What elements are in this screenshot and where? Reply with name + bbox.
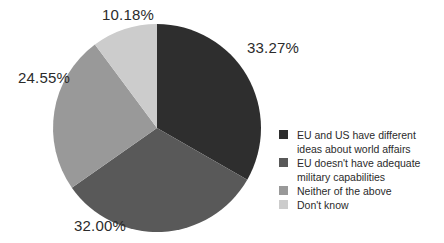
legend-item: Neither of the above [279,184,429,198]
legend: EU and US have different ideas about wor… [279,128,429,212]
pie-percentage-label: 24.55% [18,70,70,85]
legend-swatch [279,130,288,139]
legend-item: EU and US have different ideas about wor… [279,128,429,156]
legend-item: EU doesn't have adequate military capabi… [279,156,429,184]
legend-label: Neither of the above [297,184,429,198]
legend-swatch [279,200,288,209]
legend-label: Don't know [297,198,429,212]
pie-percentage-label: 32.00% [74,218,126,233]
pie-percentage-label: 33.27% [247,40,299,55]
legend-label: EU doesn't have adequate military capabi… [297,156,429,184]
legend-item: Don't know [279,198,429,212]
legend-label: EU and US have different ideas about wor… [297,128,429,156]
legend-swatch [279,186,288,195]
pie-chart-figure: 33.27%32.00%24.55%10.18% EU and US have … [0,0,444,243]
pie-percentage-label: 10.18% [102,7,154,22]
legend-swatch [279,158,288,167]
